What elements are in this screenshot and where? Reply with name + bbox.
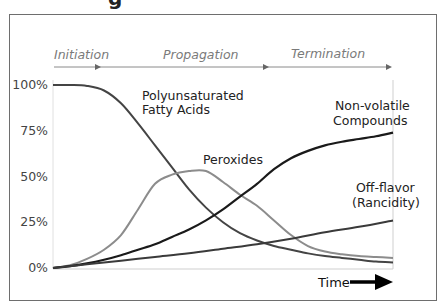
y-tick-100: 100% — [12, 77, 48, 92]
label-nonvolatile-line2: Compounds — [333, 113, 407, 128]
y-tick-75: 75% — [20, 123, 48, 138]
series-line-peroxides — [53, 170, 393, 268]
label-nonvolatile-line1: Non-volatile — [335, 98, 410, 113]
y-tick-0: 0% — [28, 260, 48, 275]
y-tick-25: 25% — [20, 214, 48, 229]
phase-label-propagation: Propagation — [163, 47, 239, 62]
phase-label-initiation: Initiation — [54, 47, 109, 62]
lipid-oxidation-chart: Initiation Propagation Termination 100% … — [0, 0, 445, 308]
y-tick-50: 50% — [20, 169, 48, 184]
label-offflavor-line1: Off-flavor — [356, 180, 416, 195]
time-arrow-icon — [350, 274, 393, 290]
phase-axis — [54, 64, 392, 70]
time-label: Time — [317, 275, 350, 290]
phase-label-termination: Termination — [291, 46, 365, 61]
label-pufa-line2: Fatty Acids — [142, 102, 210, 117]
label-offflavor-line2: (Rancidity) — [352, 195, 420, 210]
label-pufa-line1: Polyunsaturated — [142, 88, 244, 103]
label-peroxides: Peroxides — [203, 152, 263, 167]
